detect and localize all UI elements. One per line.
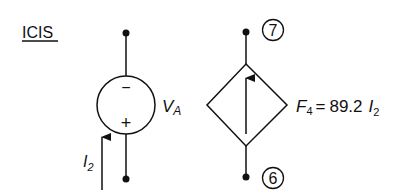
terminal-dot-bottom [123,176,130,183]
circuit-diagram: ICIS − + VA I2 7 6 F4=89.2I2 [0,0,412,195]
voltage-source: − + [97,30,155,183]
diamond-source [207,64,287,146]
minus-sign: − [121,79,130,96]
svg-text:6: 6 [269,170,278,187]
equation-label: F4=89.2I2 [296,97,379,118]
svg-text:7: 7 [269,22,278,39]
voltage-label: VA [162,97,181,118]
plus-sign: + [121,113,132,133]
dependent-current-source [207,29,287,181]
current-label: I2 [83,153,94,173]
node-6-label: 6 [263,168,284,189]
terminal-dot-6 [243,174,250,181]
title-label: ICIS [22,24,53,41]
node-7-label: 7 [263,20,284,41]
